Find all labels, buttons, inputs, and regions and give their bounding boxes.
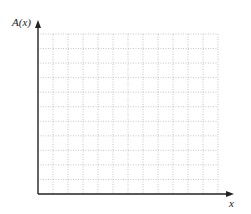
x-axis-label: x: [229, 197, 234, 209]
chart-canvas: [0, 0, 251, 214]
y-axis-label: A(x): [12, 16, 31, 28]
y-axis-arrow-icon: [35, 20, 41, 28]
grid-lines: [38, 34, 218, 194]
